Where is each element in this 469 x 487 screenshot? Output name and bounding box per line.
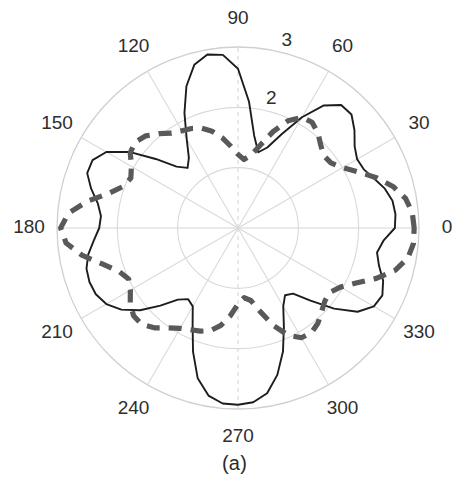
polar-figure: 0306090120150180210240270300330 23 (a)	[0, 0, 469, 487]
grid-spoke-330	[238, 228, 395, 319]
grid-spoke-150	[81, 138, 238, 229]
radial-tick-label-2: 2	[266, 87, 277, 108]
angular-tick-label-120: 120	[118, 35, 150, 56]
angular-tick-label-0: 0	[442, 216, 453, 237]
angular-tick-label-330: 330	[403, 321, 435, 342]
polar-grid	[57, 47, 419, 409]
angular-tick-label-30: 30	[408, 112, 429, 133]
polar-chart: 0306090120150180210240270300330 23	[0, 0, 469, 487]
figure-caption: (a)	[0, 452, 469, 475]
angular-tick-label-300: 300	[327, 397, 359, 418]
angular-tick-label-240: 240	[118, 397, 150, 418]
angular-tick-label-150: 150	[41, 112, 73, 133]
angular-tick-label-180: 180	[13, 216, 45, 237]
angular-tick-label-270: 270	[222, 425, 254, 446]
grid-spoke-120	[148, 71, 239, 228]
radial-tick-label-3: 3	[282, 29, 293, 50]
angular-tick-label-60: 60	[332, 35, 353, 56]
angular-tick-label-90: 90	[227, 7, 248, 28]
angular-tick-label-210: 210	[41, 321, 73, 342]
grid-spoke-60	[238, 71, 329, 228]
angular-tick-labels: 0306090120150180210240270300330	[13, 7, 452, 446]
radial-tick-labels: 23	[266, 29, 292, 108]
